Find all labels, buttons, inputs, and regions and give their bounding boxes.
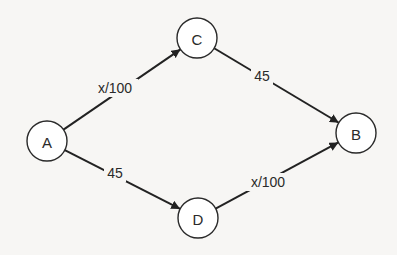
node-label: A	[42, 134, 52, 151]
edge-label: x/100	[98, 80, 132, 96]
edge-d-b: x/100	[216, 142, 339, 208]
node-a: A	[27, 121, 67, 161]
graph-canvas: x/1004545x/100 ACBD	[0, 0, 397, 255]
edge-label: 45	[107, 165, 123, 181]
edge-label: x/100	[251, 174, 285, 190]
node-label: C	[192, 31, 203, 48]
nodes-layer: ACBD	[27, 18, 376, 238]
node-c: C	[177, 18, 217, 58]
node-label: D	[193, 211, 204, 228]
edges-layer: x/1004545x/100	[63, 48, 338, 209]
edge-a-d: 45	[65, 150, 180, 209]
node-d: D	[178, 198, 218, 238]
edge-label: 45	[254, 68, 270, 84]
edge-c-b: 45	[214, 48, 339, 122]
edge-a-c: x/100	[63, 49, 180, 129]
graph-svg: x/1004545x/100 ACBD	[0, 0, 397, 255]
node-b: B	[336, 113, 376, 153]
node-label: B	[351, 126, 361, 143]
edge-arrow-line	[214, 48, 339, 122]
